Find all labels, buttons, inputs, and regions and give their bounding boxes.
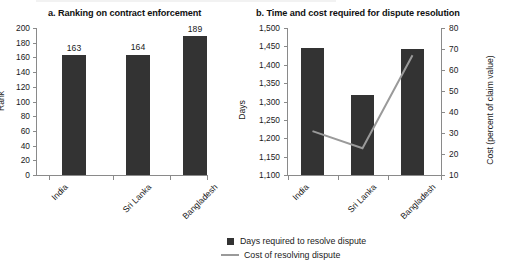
legend-item-cost: Cost of resolving dispute <box>227 248 366 262</box>
legend-label-cost: Cost of resolving dispute <box>244 250 340 260</box>
legend-label-days: Days required to resolve dispute <box>240 236 366 246</box>
figure-container: a. Ranking on contract enforcement Rank … <box>0 0 509 276</box>
legend-line-swatch-icon <box>221 254 239 256</box>
legend: Days required to resolve dispute Cost of… <box>227 234 366 262</box>
legend-square-swatch-icon <box>227 238 234 245</box>
legend-item-days: Days required to resolve dispute <box>227 234 366 248</box>
cost-line-path <box>313 55 413 148</box>
